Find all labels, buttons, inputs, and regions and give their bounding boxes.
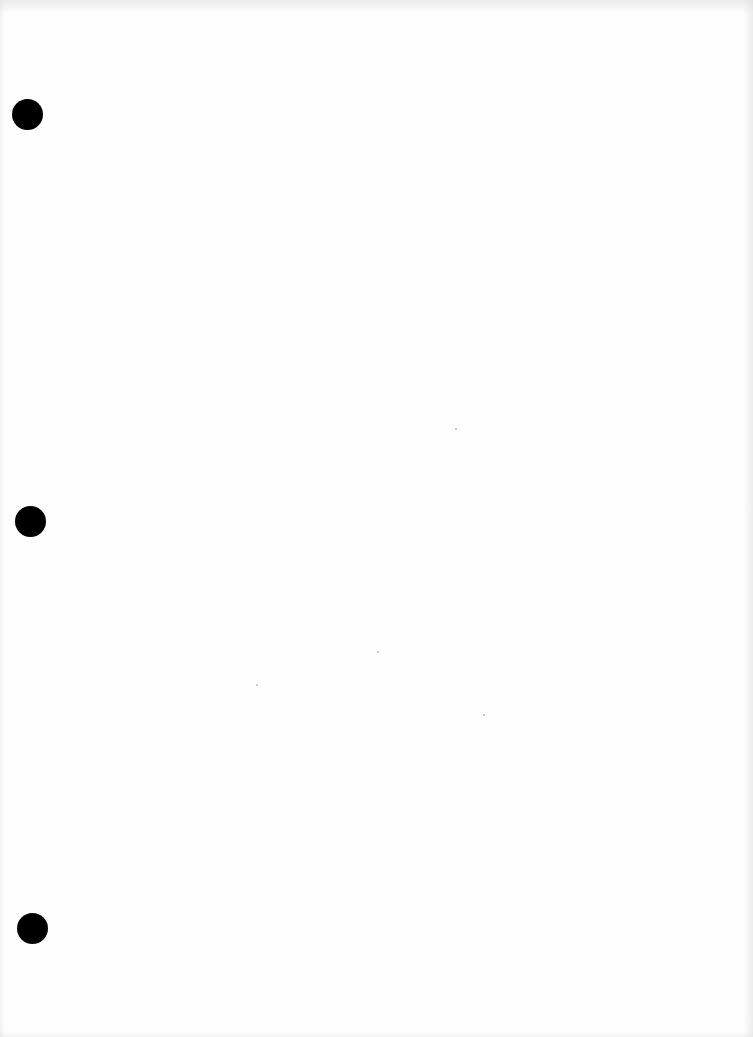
scan-edge-top <box>0 0 753 14</box>
punch-hole-2 <box>15 506 46 537</box>
scanned-page <box>0 0 753 1037</box>
scan-speck <box>256 684 258 686</box>
scan-edge-left <box>0 0 5 1037</box>
punch-hole-3 <box>17 913 48 944</box>
page-content <box>70 30 720 1010</box>
scan-speck <box>377 651 379 653</box>
scan-edge-right <box>743 0 753 1037</box>
scan-speck <box>455 428 457 430</box>
scan-speck <box>483 714 485 716</box>
punch-hole-1 <box>12 99 43 130</box>
scan-edge-bottom <box>0 1031 753 1037</box>
